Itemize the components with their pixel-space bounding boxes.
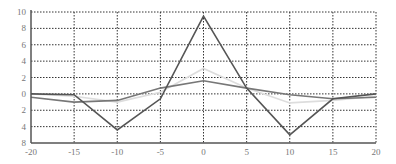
x-tick-label: -20 <box>25 147 37 157</box>
x-tick-label: 10 <box>285 147 295 157</box>
x-tick-label: 0 <box>201 147 206 157</box>
x-tick-label: -15 <box>68 147 80 157</box>
x-tick-label: 5 <box>244 147 249 157</box>
y-tick-label: 0 <box>22 89 27 99</box>
y-tick-label: 4 <box>22 122 27 132</box>
y-tick-label: 2 <box>22 73 27 83</box>
y-tick-label: 2 <box>22 105 27 115</box>
y-tick-labels: 1086420248 <box>17 7 27 148</box>
grid <box>31 12 376 143</box>
y-tick-label: 10 <box>17 7 27 17</box>
x-tick-label: -5 <box>157 147 165 157</box>
x-tick-label: -10 <box>111 147 123 157</box>
x-tick-label: 20 <box>372 147 382 157</box>
line-chart: 1086420248 -20-15-10-505101520 <box>0 0 396 164</box>
y-tick-label: 4 <box>22 56 27 66</box>
y-tick-label: 8 <box>22 23 27 33</box>
y-tick-label: 6 <box>22 40 27 50</box>
x-tick-label: 15 <box>328 147 338 157</box>
x-tick-labels: -20-15-10-505101520 <box>25 147 381 157</box>
